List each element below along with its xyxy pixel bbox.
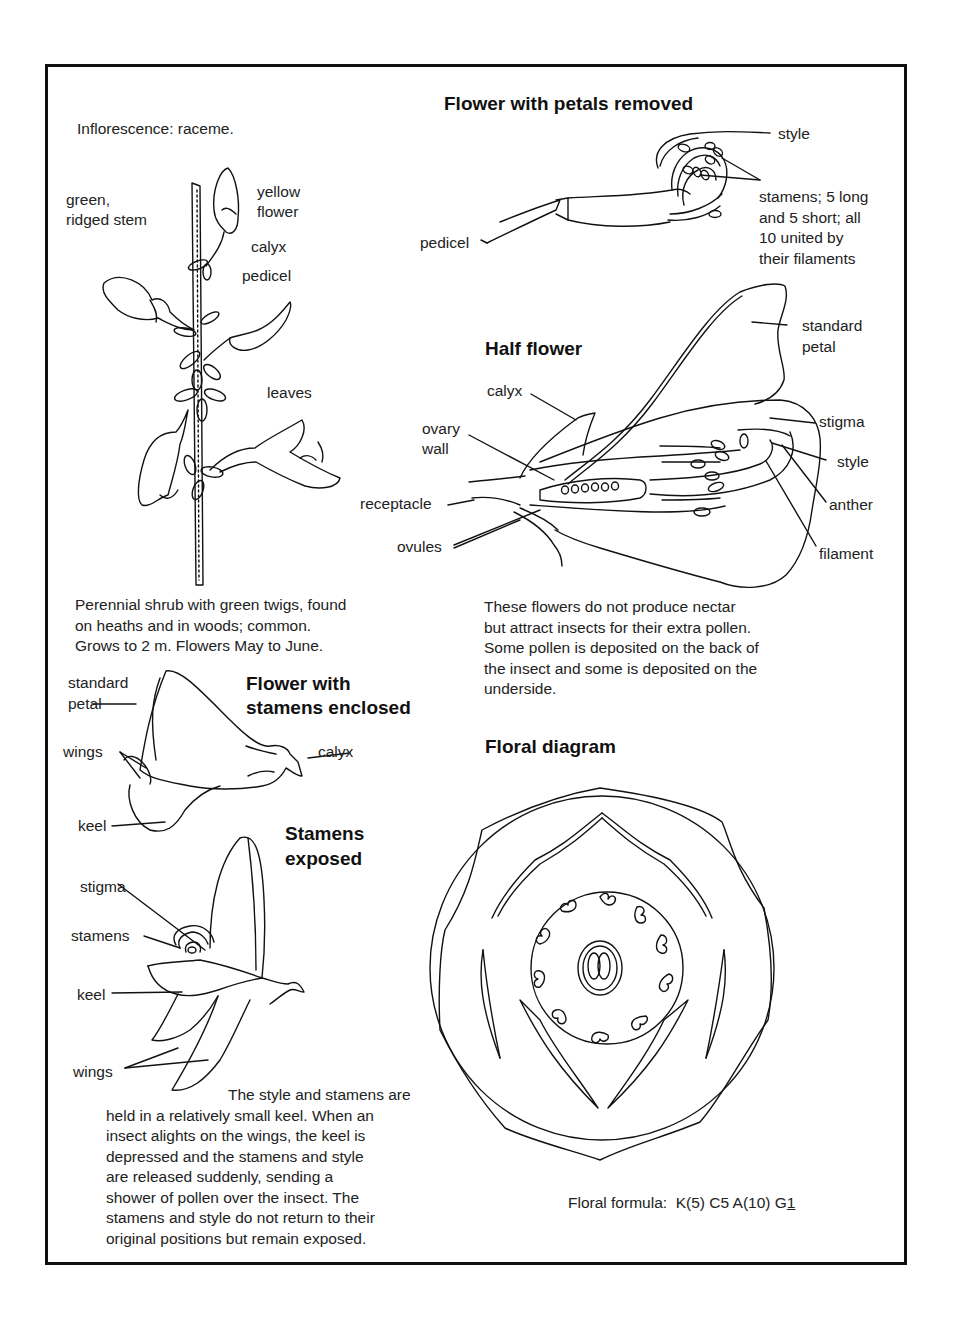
label-pedicel-2: pedicel — [420, 233, 469, 253]
label-stigma-exp: stigma — [80, 877, 126, 897]
label-stem-1: green, — [66, 190, 110, 210]
label-stigma: stigma — [819, 412, 865, 432]
plant-description: Perennial shrub with green twigs, found … — [75, 595, 346, 657]
pollination-note: These flowers do not produce nectar but … — [484, 597, 759, 700]
heading-enclosed-2: stamens enclosed — [246, 696, 411, 720]
label-calyx-half: calyx — [487, 381, 522, 401]
floral-formula: Floral formula: K(5) C5 A(10) G1 — [568, 1193, 795, 1213]
label-standard-enc: standard — [68, 673, 128, 693]
label-keel-enc: keel — [78, 816, 106, 836]
heading-exposed-1: Stamens — [285, 822, 364, 846]
heading-exposed-2: exposed — [285, 847, 362, 871]
label-wall: wall — [422, 439, 449, 459]
label-anther: anther — [829, 495, 873, 515]
exposed-flower-drawing — [112, 837, 304, 1090]
label-wings-enc: wings — [63, 742, 103, 762]
label-petal: petal — [802, 337, 836, 357]
label-leaves: leaves — [267, 383, 312, 403]
label-ovules: ovules — [397, 537, 442, 557]
label-pedicel: pedicel — [242, 266, 291, 286]
mechanism-note: The style and stamens are held in a rela… — [106, 1085, 411, 1249]
label-filament: filament — [819, 544, 873, 564]
label-style: style — [778, 124, 810, 144]
label-stem-2: ridged stem — [66, 210, 147, 230]
label-wings-exp: wings — [73, 1062, 113, 1082]
inflorescence-text: Inflorescence: raceme. — [77, 119, 234, 139]
stamens-note: stamens; 5 long and 5 short; all 10 unit… — [759, 187, 868, 269]
half-flower-drawing — [448, 284, 826, 587]
raceme-drawing — [103, 168, 340, 585]
label-yellow-flower-2: flower — [257, 202, 298, 222]
heading-petals-removed: Flower with petals removed — [444, 92, 693, 116]
label-petal-enc: petal — [68, 694, 102, 714]
label-keel-exp: keel — [77, 985, 105, 1005]
label-receptacle: receptacle — [360, 494, 432, 514]
label-standard: standard — [802, 316, 862, 336]
heading-enclosed-1: Flower with — [246, 672, 351, 696]
heading-floral-diagram: Floral diagram — [485, 735, 616, 759]
heading-half-flower: Half flower — [485, 337, 582, 361]
petals-removed-drawing — [481, 132, 770, 243]
floral-diagram-drawing — [430, 788, 774, 1160]
label-yellow-flower-1: yellow — [257, 182, 300, 202]
label-stamens-exp: stamens — [71, 926, 130, 946]
label-calyx-enc: calyx — [318, 742, 353, 762]
label-calyx: calyx — [251, 237, 286, 257]
label-ovary: ovary — [422, 419, 460, 439]
label-style-half: style — [837, 452, 869, 472]
